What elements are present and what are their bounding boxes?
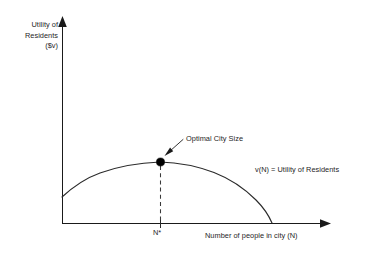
x-axis-label: Number of people in city (N) [205, 231, 298, 242]
nstar-tick-label: N* [153, 228, 161, 239]
figure-root: Utility of Residents ($v) Number of peop… [0, 0, 379, 256]
optimal-point-marker [156, 158, 164, 166]
y-axis-arrowhead [58, 16, 67, 27]
y-axis-label-line1: Utility of [0, 20, 58, 31]
y-axis-label-line2: Residents [0, 31, 58, 42]
curve-series-label: v(N) = Utility of Residents [255, 165, 339, 176]
y-axis-label: Utility of Residents ($v) [0, 20, 58, 52]
y-axis-label-line3: ($v) [0, 41, 58, 52]
x-axis-arrowhead [320, 219, 331, 228]
utility-curve [62, 162, 272, 223]
optimal-city-size-annotation: Optimal City Size [186, 134, 243, 145]
